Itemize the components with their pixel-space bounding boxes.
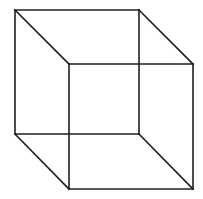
- top-right-connector: [139, 10, 193, 64]
- cube-edges: [15, 10, 193, 189]
- bottom-left-connector: [15, 134, 69, 189]
- necker-cube-diagram: [0, 0, 203, 199]
- bottom-right-connector: [139, 134, 193, 189]
- top-left-connector: [15, 10, 69, 64]
